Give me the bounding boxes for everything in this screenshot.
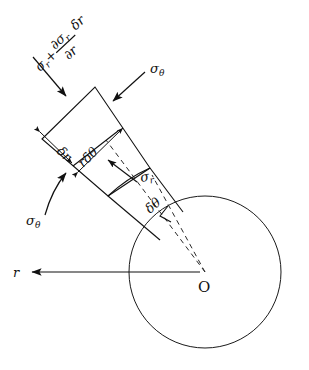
svg-text:σr: σr (139, 168, 156, 187)
label-outer-radial-stress: σr+ ∂σr ∂r δr (28, 12, 100, 82)
leader-inner-radial-stress (108, 160, 137, 182)
svg-text:δr: δr (54, 143, 75, 164)
radial-dashed-line-lower (152, 175, 205, 272)
svg-text:σθ: σθ (150, 61, 165, 78)
label-hoop-stress-lower: σθ (26, 213, 41, 230)
hoop-upper-sub: θ (159, 68, 165, 78)
figure-container: σr+ ∂σr ∂r δr σθ σθ (0, 0, 309, 370)
outer-multiplier-delta-r: δr (67, 12, 88, 33)
stress-element-diagram: σr+ ∂σr ∂r δr σθ σθ (0, 0, 309, 370)
label-hoop-stress-upper: σθ (150, 61, 165, 78)
inner-sigma-sub: r (149, 175, 156, 186)
leader-hoop-stress-upper (113, 72, 145, 101)
angle-marker-delta-theta (160, 206, 171, 222)
svg-text:σθ: σθ (26, 213, 41, 230)
label-radial-thickness: δr (54, 143, 75, 164)
label-center-point-o: O (198, 278, 210, 296)
label-inner-radial-stress: σr (139, 168, 156, 187)
label-r-axis: r (13, 265, 20, 280)
leader-hoop-stress-lower (45, 173, 66, 215)
hoop-lower-sub: θ (35, 220, 41, 230)
